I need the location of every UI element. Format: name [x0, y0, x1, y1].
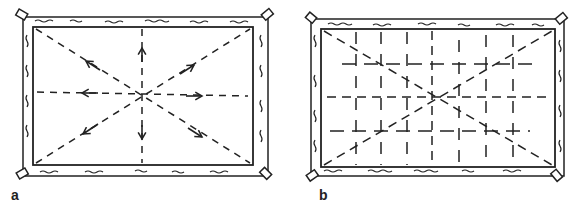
corner-tack-icon	[261, 8, 273, 20]
panel-b	[305, 12, 567, 181]
corner-tack-icon	[260, 167, 272, 179]
arrow-upright-icon	[180, 65, 194, 74]
corner-tack-icon	[306, 170, 318, 181]
panel-label-a: a	[11, 187, 19, 203]
grid-vertical-lines	[356, 32, 513, 165]
arrow-downleft-icon	[83, 124, 98, 134]
corner-tack-icon	[16, 168, 28, 179]
diagram-canvas	[0, 0, 577, 214]
diagonal-lines	[324, 31, 552, 165]
arrow-upleft-icon	[86, 61, 100, 70]
outer-frame	[23, 17, 268, 176]
corner-tack-icon	[305, 12, 316, 23]
corner-tack-icon	[555, 12, 567, 24]
corner-tack-icon	[16, 9, 28, 20]
stretch-lines	[36, 29, 250, 163]
panel-label-b: b	[319, 187, 328, 203]
panel-a	[16, 8, 274, 179]
corner-tack-icon	[551, 169, 563, 181]
